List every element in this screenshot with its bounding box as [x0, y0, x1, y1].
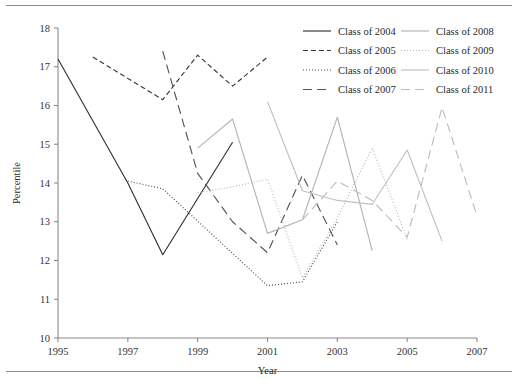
y-tick-label: 10 [40, 333, 51, 344]
x-tick-label: 1995 [48, 346, 69, 357]
figure-page: 1011121314151617181995199719992001200320… [0, 0, 518, 387]
y-tick-label: 15 [40, 139, 51, 150]
x-tick-label: 2001 [257, 346, 278, 357]
legend-label-class-of-2007: Class of 2007 [338, 84, 396, 95]
x-tick-label: 1999 [187, 346, 208, 357]
series-line-class-of-2008 [198, 117, 373, 251]
x-tick-label: 1997 [117, 346, 138, 357]
series-line-class-of-2005 [93, 55, 268, 100]
line-chart-figure: 1011121314151617181995199719992001200320… [0, 0, 518, 387]
series-line-class-of-2007 [163, 51, 338, 253]
legend-layer: Class of 2004Class of 2005Class of 2006C… [303, 26, 494, 96]
y-tick-label: 11 [40, 294, 50, 305]
series-layer [58, 51, 477, 285]
y-axis-title: Percentile [11, 162, 22, 204]
x-tick-label: 2007 [467, 346, 488, 357]
legend-label-class-of-2006: Class of 2006 [338, 65, 396, 76]
series-line-class-of-2011 [302, 107, 477, 237]
axis-layer: 1011121314151617181995199719992001200320… [11, 23, 488, 376]
y-tick-label: 18 [40, 23, 51, 34]
y-tick-label: 16 [40, 100, 51, 111]
legend-label-class-of-2005: Class of 2005 [338, 45, 396, 56]
y-tick-label: 17 [40, 61, 51, 72]
series-line-class-of-2006 [128, 181, 337, 286]
x-tick-label: 2005 [397, 346, 418, 357]
y-tick-label: 13 [40, 216, 51, 227]
series-line-class-of-2004 [58, 59, 233, 255]
y-tick-label: 14 [40, 178, 51, 189]
legend-label-class-of-2010: Class of 2010 [436, 65, 494, 76]
x-axis-title: Year [258, 365, 278, 376]
series-line-class-of-2009 [198, 148, 408, 278]
chart-svg: 1011121314151617181995199719992001200320… [0, 0, 518, 387]
x-tick-label: 2003 [327, 346, 348, 357]
legend-label-class-of-2009: Class of 2009 [436, 45, 494, 56]
y-tick-label: 12 [40, 255, 51, 266]
legend-label-class-of-2004: Class of 2004 [338, 26, 397, 37]
series-line-class-of-2010 [268, 102, 443, 242]
legend-label-class-of-2008: Class of 2008 [436, 26, 494, 37]
legend-label-class-of-2011: Class of 2011 [436, 84, 493, 95]
